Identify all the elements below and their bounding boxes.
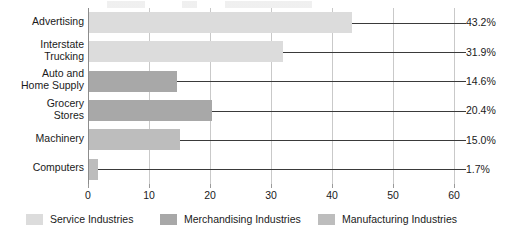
value-labels: 43.2% 31.9% 14.6% 20.4% 15.0% 1.7% [466, 8, 507, 184]
category-label-grocery-stores: Grocery Stores [0, 98, 84, 121]
x-tick-label-60: 60 [439, 189, 469, 201]
bar-advertising[interactable] [88, 12, 352, 33]
bar-row [88, 96, 454, 125]
x-tick-30 [271, 184, 272, 188]
bar-chart: Advertising Interstate Trucking Auto and… [0, 0, 507, 238]
x-tick-10 [149, 184, 150, 188]
category-label-line: Grocery [0, 98, 84, 110]
x-tick-label-40: 40 [317, 189, 347, 201]
category-label-advertising: Advertising [0, 16, 84, 28]
legend: Service Industries Merchandising Industr… [0, 209, 507, 231]
legend-label: Manufacturing Industries [342, 213, 457, 225]
category-label-line: Advertising [0, 16, 84, 28]
value-label-grocery-stores: 20.4% [466, 105, 507, 116]
category-label-line: Auto and [0, 68, 84, 80]
legend-item-merchandising-industries[interactable]: Merchandising Industries [160, 209, 301, 229]
x-tick-50 [393, 184, 394, 188]
legend-item-manufacturing-industries[interactable]: Manufacturing Industries [318, 209, 457, 229]
category-label-line: Home Supply [0, 80, 84, 92]
plot-area [88, 8, 454, 184]
bar-machinery[interactable] [88, 129, 180, 150]
category-label-line: Interstate [0, 39, 84, 51]
value-label-machinery: 15.0% [466, 135, 507, 146]
x-tick-0 [88, 184, 89, 188]
bar-row [88, 8, 454, 37]
bar-interstate-trucking[interactable] [88, 41, 283, 62]
category-axis-labels: Advertising Interstate Trucking Auto and… [0, 8, 84, 184]
x-tick-label-10: 10 [134, 189, 164, 201]
x-tick-label-30: 30 [256, 189, 286, 201]
leader-line-interstate-trucking [283, 52, 466, 53]
legend-swatch-icon [318, 214, 335, 225]
value-label-computers: 1.7% [466, 164, 507, 175]
leader-line-auto-and-home-supply [177, 81, 466, 82]
legend-swatch-icon [26, 214, 43, 225]
legend-label: Service Industries [50, 213, 133, 225]
leader-line-grocery-stores [212, 111, 466, 112]
x-tick-60 [454, 184, 455, 188]
category-label-line: Computers [0, 162, 84, 174]
category-label-interstate-trucking: Interstate Trucking [0, 39, 84, 62]
x-tick-label-0: 0 [73, 189, 103, 201]
legend-item-service-industries[interactable]: Service Industries [26, 209, 133, 229]
x-axis: 0 10 20 30 40 50 60 [88, 184, 454, 202]
category-label-machinery: Machinery [0, 133, 84, 145]
bar-row [88, 155, 454, 184]
legend-swatch-icon [160, 214, 177, 225]
value-label-auto-and-home-supply: 14.6% [466, 76, 507, 87]
leader-line-computers [98, 169, 466, 170]
bar-row [88, 125, 454, 154]
x-tick-40 [332, 184, 333, 188]
x-tick-label-50: 50 [378, 189, 408, 201]
scan-artifact [95, 1, 405, 8]
category-label-line: Stores [0, 110, 84, 122]
category-label-auto-and-home-supply: Auto and Home Supply [0, 68, 84, 91]
category-label-line: Trucking [0, 51, 84, 63]
bar-grocery-stores[interactable] [88, 100, 212, 121]
bar-row [88, 67, 454, 96]
value-label-advertising: 43.2% [466, 17, 507, 28]
bar-computers[interactable] [88, 159, 98, 180]
value-label-interstate-trucking: 31.9% [466, 47, 507, 58]
x-tick-20 [210, 184, 211, 188]
legend-label: Merchandising Industries [184, 213, 301, 225]
x-tick-label-20: 20 [195, 189, 225, 201]
gridline-60 [454, 8, 455, 184]
bar-row [88, 37, 454, 66]
bar-auto-and-home-supply[interactable] [88, 71, 177, 92]
y-axis-line [88, 8, 89, 184]
category-label-computers: Computers [0, 162, 84, 174]
leader-line-machinery [180, 140, 466, 141]
category-label-line: Machinery [0, 133, 84, 145]
leader-line-advertising [352, 23, 466, 24]
